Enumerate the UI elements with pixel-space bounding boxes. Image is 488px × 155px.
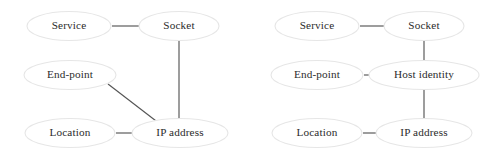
left-diagram: ServiceSocketEnd-pointLocationIP address [24, 12, 228, 148]
graph-node[interactable]: Location [25, 119, 115, 148]
graph-node[interactable]: Service [27, 12, 111, 41]
graph-node[interactable]: IP address [132, 119, 228, 148]
right-diagram: ServiceSocketEnd-pointHost identityLocat… [271, 12, 479, 148]
figure-canvas: ServiceSocketEnd-pointLocationIP address… [0, 0, 488, 155]
node-label: End-point [294, 68, 341, 80]
node-label: Location [50, 126, 91, 138]
graph-node[interactable]: End-point [271, 61, 363, 90]
diagram-svg: ServiceSocketEnd-pointLocationIP address… [0, 0, 488, 155]
graph-node[interactable]: Socket [139, 12, 219, 41]
node-label: Socket [163, 19, 195, 31]
node-label: IP address [156, 126, 203, 138]
node-label: Host identity [394, 68, 454, 80]
graph-node[interactable]: End-point [24, 61, 116, 90]
graph-node[interactable]: Location [272, 119, 362, 148]
edge-diagonal [108, 84, 160, 124]
graph-node[interactable]: Host identity [369, 61, 479, 90]
node-label: IP address [400, 126, 447, 138]
graph-node[interactable]: Socket [384, 12, 464, 41]
graph-node[interactable]: Service [275, 12, 359, 41]
node-label: End-point [47, 68, 94, 80]
node-label: Service [52, 19, 87, 31]
graph-node[interactable]: IP address [376, 119, 472, 148]
node-label: Service [300, 19, 335, 31]
node-label: Socket [408, 19, 440, 31]
node-label: Location [297, 126, 338, 138]
